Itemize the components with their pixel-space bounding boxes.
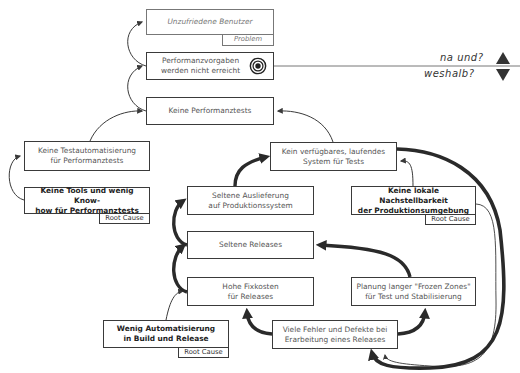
box-viele-fehler: Viele Fehler und Defekte bei Erarbeitung… [272, 320, 398, 349]
box-label: Unzufriedene Benutzer [167, 17, 252, 27]
box-line2: für Releases [222, 292, 278, 302]
box-keine-testautomatisierung: Keine Testautomatisierung für Performanz… [24, 141, 150, 171]
box-hohe-fixkosten: Hohe Fixkosten für Releases [187, 277, 314, 306]
box-keine-performanztests: Keine Performanztests [146, 97, 274, 125]
box-line2: für Performanztests [38, 156, 136, 166]
root-cause-tag: Root Cause [99, 214, 150, 224]
root-cause-box-wenig-automatisierung: Wenig Automatisierung in Build und Relea… [103, 320, 229, 348]
box-line2: Erarbeitung eines Releases [283, 335, 388, 345]
box-line1: Viele Fehler und Defekte bei [283, 325, 388, 335]
box-line2: auf Produktionssystem [208, 201, 292, 211]
root-cause-box-nachstellbarkeit: Keine lokale Nachstellbarkeit der Produk… [351, 186, 476, 215]
box-line1: Keine Testautomatisierung [38, 146, 136, 156]
box-line1: Performanzvorgaben [161, 56, 240, 66]
box-line2: in Build und Release [117, 334, 215, 344]
box-line1: Kein verfügbares, laufendes [282, 147, 385, 157]
root-cause-box-keine-tools: Keine Tools und wenig Know- how für Perf… [24, 187, 150, 214]
box-label: Keine Performanztests [169, 106, 252, 116]
box-kein-verfuegbares-system: Kein verfügbares, laufendes System für T… [270, 142, 397, 171]
problem-box-unzufriedene-benutzer: Unzufriedene Benutzer [146, 9, 274, 35]
root-cause-tag: Root Cause [178, 348, 229, 358]
box-line1: Hohe Fixkosten [222, 282, 278, 292]
box-seltene-releases: Seltene Releases [187, 231, 314, 259]
root-cause-tag: Root Cause [425, 215, 476, 225]
box-line1: Keine lokale Nachstellbarkeit [356, 186, 471, 206]
box-line1: Seltene Auslieferung [208, 191, 292, 201]
box-frozen-zones: Planung langer "Frozen Zones" für Test u… [351, 277, 476, 306]
triangle-up-icon [496, 52, 510, 64]
problem-tag: Problem [222, 35, 274, 46]
box-line2: werden nicht erreicht [161, 66, 240, 76]
box-line2: für Test und Stabilisierung [356, 292, 470, 302]
box-performanzvorgaben: Performanzvorgaben werden nicht erreicht [146, 52, 274, 80]
box-line2: der Produktionsumgebung [356, 206, 471, 216]
triangle-down-icon [496, 69, 510, 81]
box-line1: Wenig Automatisierung [117, 324, 215, 334]
box-seltene-auslieferung: Seltene Auslieferung auf Produktionssyst… [187, 186, 314, 215]
box-line1: Planung langer "Frozen Zones" [356, 282, 470, 292]
label-weshalb: weshalb? [424, 68, 474, 79]
label-na-und: na und? [440, 52, 483, 63]
target-icon [249, 57, 267, 75]
box-line1: Keine Tools und wenig Know- [29, 186, 145, 206]
box-label: Seltene Releases [219, 240, 282, 250]
box-line2: System für Tests [282, 157, 385, 167]
